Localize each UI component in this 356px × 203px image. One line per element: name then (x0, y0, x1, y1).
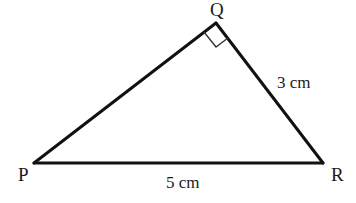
side-qr (216, 23, 323, 163)
vertex-label-r: R (331, 164, 344, 185)
vertex-label-q: Q (210, 0, 224, 20)
side-pq (34, 23, 216, 163)
vertex-label-p: P (18, 164, 29, 185)
triangle-diagram: Q P R 3 cm 5 cm (0, 0, 356, 203)
side-label-qr: 3 cm (277, 73, 311, 92)
side-label-pr: 5 cm (166, 173, 200, 192)
